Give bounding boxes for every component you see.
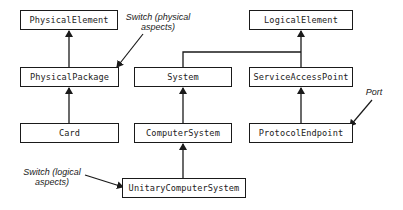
node-computer-system: ComputerSystem (134, 123, 232, 143)
node-system: System (134, 67, 232, 87)
annotation-line: aspects) (124, 22, 192, 32)
node-label: UnitaryComputerSystem (129, 183, 240, 193)
node-label: System (167, 72, 199, 82)
annotation-port: Port (362, 87, 386, 97)
annotation-line: aspects) (20, 177, 84, 187)
annotation-line: Switch (logical (20, 167, 84, 177)
annotation-arrow-port (350, 100, 372, 126)
annotation-line: Switch (physical (124, 12, 192, 22)
node-label: LogicalElement (264, 15, 338, 25)
edge-system-to-logicalelement (183, 52, 301, 67)
node-protocol-endpoint: ProtocolEndpoint (249, 123, 353, 143)
annotation-arrow-switch-physical (117, 34, 143, 67)
node-physical-element: PhysicalElement (20, 10, 118, 30)
annotation-switch-physical: Switch (physical aspects) (124, 12, 192, 32)
annotation-switch-logical: Switch (logical aspects) (20, 167, 84, 187)
node-logical-element: LogicalElement (249, 10, 353, 30)
node-label: ServiceAccessPoint (254, 72, 349, 82)
annotation-line: Port (362, 87, 386, 97)
diagram-canvas: PhysicalElement PhysicalPackage Card Sys… (0, 0, 403, 210)
node-label: PhysicalPackage (30, 72, 109, 82)
node-physical-package: PhysicalPackage (20, 67, 119, 87)
node-label: Card (59, 128, 80, 138)
node-label: PhysicalElement (29, 15, 108, 25)
node-card: Card (20, 123, 119, 143)
node-unitary-computer-system: UnitaryComputerSystem (122, 178, 246, 198)
node-label: ComputerSystem (146, 128, 220, 138)
node-label: ProtocolEndpoint (259, 128, 343, 138)
annotation-arrow-switch-logical (85, 175, 123, 187)
node-service-access-point: ServiceAccessPoint (249, 67, 353, 87)
